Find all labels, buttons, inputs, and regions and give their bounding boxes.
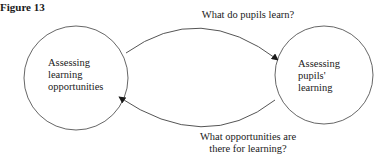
edge-bottom-arrow xyxy=(119,97,275,127)
node-right-label: Assessing pupils' learning xyxy=(298,58,340,94)
edge-top-arrow xyxy=(126,28,278,60)
edge-top-label: What do pupils learn? xyxy=(168,9,328,21)
node-left-label: Assessing learning opportunities xyxy=(48,57,103,93)
edge-bottom-label: What opportunities are there for learnin… xyxy=(178,131,318,155)
